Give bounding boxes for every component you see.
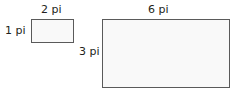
large-rectangle-height-label: 3 pi — [79, 46, 100, 58]
large-rectangle-width-label: 6 pi — [148, 4, 169, 16]
small-rectangle-width-label: 2 pi — [41, 4, 62, 16]
large-rectangle — [102, 19, 230, 88]
small-rectangle-height-label: 1 pi — [5, 25, 26, 37]
small-rectangle — [31, 19, 74, 43]
